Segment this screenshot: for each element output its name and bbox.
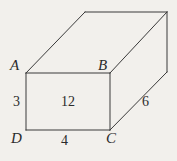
vertex-label-b: B (98, 58, 107, 73)
rectangular-prism-drawing (0, 0, 177, 161)
vertex-label-a: A (10, 58, 19, 73)
dimension-label-depth: 6 (142, 95, 149, 109)
receding-edge-C-backbottomright (110, 72, 167, 130)
figure-container: A B C D 3 12 4 6 (0, 0, 177, 161)
dimension-label-height: 3 (13, 95, 20, 109)
receding-edge-A-backtopleft (26, 12, 85, 73)
receding-edge-B-backtopright (110, 12, 167, 73)
dimension-label-face-area: 12 (61, 95, 75, 109)
vertex-label-c: C (106, 131, 116, 146)
dimension-label-width: 4 (61, 134, 68, 148)
vertex-label-d: D (11, 131, 22, 146)
